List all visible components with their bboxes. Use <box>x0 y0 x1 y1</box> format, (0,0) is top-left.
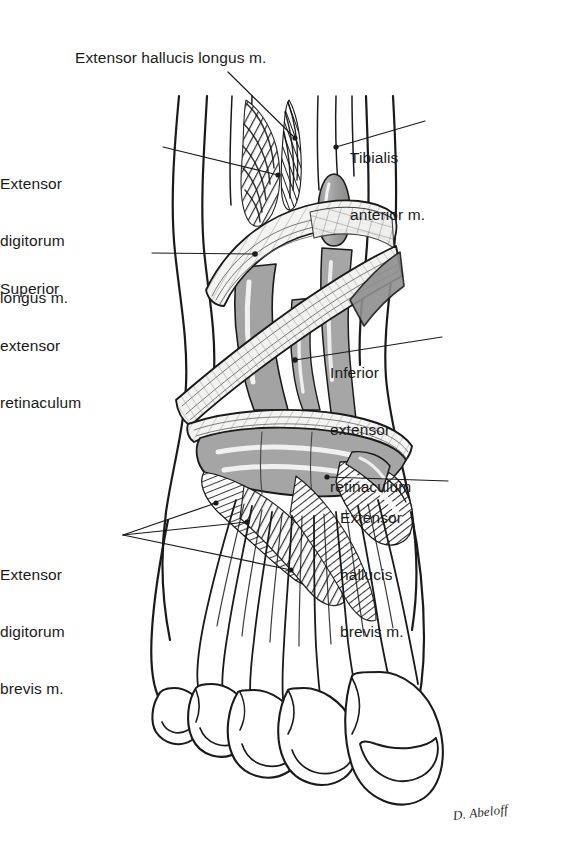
toe-1-hallux <box>345 672 443 805</box>
label-line: extensor <box>0 336 145 355</box>
label-line: brevis m. <box>340 622 555 641</box>
label-extensor-hallucis-longus: Extensor hallucis longus m. <box>75 48 266 67</box>
extensor-hallucis-longus-muscle <box>281 100 301 210</box>
label-line: Extensor <box>0 174 155 193</box>
label-superior-extensor-retinaculum: Superior extensor retinaculum <box>0 241 145 450</box>
label-line: anterior m. <box>350 205 500 224</box>
label-line: extensor <box>330 420 565 439</box>
label-line: retinaculum <box>0 393 145 412</box>
extensor-digitorum-longus-muscle <box>241 100 280 226</box>
label-line: Tibialis <box>350 148 500 167</box>
label-line: Extensor <box>0 565 112 584</box>
label-line: Superior <box>0 279 145 298</box>
label-line: digitorum <box>0 622 112 641</box>
label-extensor-hallucis-brevis: Extensor hallucis brevis m. <box>340 470 555 679</box>
anatomical-figure: Extensor hallucis longus m. Extensor dig… <box>0 0 571 866</box>
label-line: Inferior <box>330 363 565 382</box>
label-line: hallucis <box>340 565 555 584</box>
label-line: brevis m. <box>0 679 112 698</box>
label-tibialis-anterior: Tibialis anterior m. <box>350 110 500 262</box>
label-extensor-digitorum-brevis: Extensor digitorum brevis m. <box>0 527 112 736</box>
label-line: Extensor <box>340 508 555 527</box>
